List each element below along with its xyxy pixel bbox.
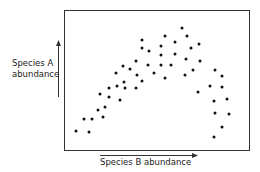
- y-axis-label: Species A abundance: [12, 58, 59, 80]
- y-axis-label-line2: abundance: [12, 69, 59, 80]
- axis-arrows: [0, 0, 260, 172]
- x-axis-label: Species B abundance: [100, 157, 191, 167]
- y-axis-label-line1: Species A: [12, 58, 59, 69]
